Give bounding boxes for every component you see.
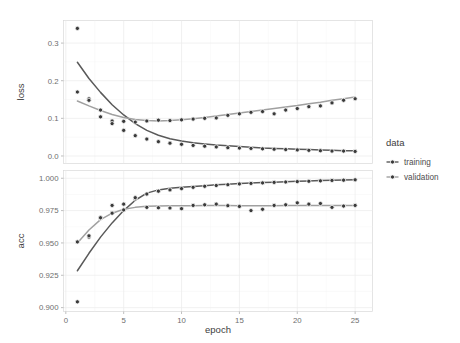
data-point-training [98,115,102,119]
legend-key-point-validation [390,175,394,179]
data-point-training [145,192,149,196]
legend-label-training[interactable]: training [404,158,431,167]
data-point-training [75,26,79,30]
data-point-validation [168,119,172,123]
y-axis-title-acc: acc [15,233,26,248]
data-point-validation [98,108,102,112]
data-point-training [353,178,357,182]
data-point-validation [307,202,311,206]
data-point-training [179,187,183,191]
data-point-training [318,179,322,183]
data-point-validation [272,203,276,207]
data-point-training [284,147,288,151]
data-point-validation [122,202,126,206]
data-point-training [156,140,160,144]
data-point-validation [145,205,149,209]
x-tick-label: 20 [293,316,302,325]
data-point-training [237,182,241,186]
data-point-validation [353,203,357,207]
data-point-validation [191,117,195,121]
data-point-validation [98,216,102,220]
data-point-validation [341,98,345,102]
data-point-validation [145,119,149,123]
data-point-training [249,146,253,150]
data-point-training [318,149,322,153]
y-tick-label-acc: 0.900 [39,303,59,312]
y-tick-label-loss: 0.3 [48,39,59,48]
x-tick-label: 25 [351,316,360,325]
y-tick-label-loss: 0.2 [48,77,59,86]
data-point-validation [203,203,207,207]
data-point-validation [156,206,160,210]
data-point-training [341,178,345,182]
data-point-training [122,208,126,212]
data-point-validation [214,202,218,206]
data-point-training [75,300,79,304]
data-point-validation [179,207,183,211]
data-point-training [284,180,288,184]
data-point-validation [237,204,241,208]
data-point-validation [133,196,137,200]
data-point-validation [260,207,264,211]
data-point-training [307,148,311,152]
data-point-validation [133,120,137,124]
data-point-training [307,179,311,183]
data-point-validation [249,209,253,213]
facet-panel-loss [64,21,373,164]
data-point-validation [318,201,322,205]
data-point-training [179,142,183,146]
data-point-validation [214,116,218,120]
data-point-validation [110,203,114,207]
data-point-validation [330,101,334,105]
data-point-training [330,178,334,182]
data-point-validation [249,110,253,114]
data-point-validation [191,203,195,207]
legend-label-validation[interactable]: validation [404,173,439,182]
data-point-training [156,189,160,193]
data-point-training [249,181,253,185]
data-point-validation [156,118,160,122]
data-point-training [295,148,299,152]
legend-key-point-training [390,160,394,164]
data-point-training [168,141,172,145]
x-axis-title: epoch [205,324,231,335]
data-point-training [203,144,207,148]
data-point-validation [341,204,345,208]
data-point-validation [75,240,79,244]
data-point-validation [75,90,79,94]
data-point-validation [203,116,207,120]
data-point-validation [272,112,276,116]
x-tick-label: 5 [122,316,127,325]
data-point-validation [168,206,172,210]
data-point-validation [318,104,322,108]
y-tick-label-acc: 0.925 [39,271,59,280]
data-point-training [214,183,218,187]
data-point-training [226,183,230,187]
data-point-validation [295,106,299,110]
data-point-training [341,149,345,153]
x-tick-label: 0 [64,316,69,325]
data-point-training [145,137,149,141]
data-point-validation [260,109,264,113]
data-point-validation [284,203,288,207]
data-point-training [353,149,357,153]
data-point-validation [307,105,311,109]
data-point-training [272,147,276,151]
data-point-validation [226,204,230,208]
data-point-validation [110,122,114,126]
data-point-validation [87,98,91,102]
x-tick-label: 10 [177,316,186,325]
data-point-validation [179,118,183,122]
data-point-validation [122,119,126,123]
data-point-training [330,149,334,153]
facet-panel-acc [64,171,373,312]
y-tick-label-loss: 0.0 [48,152,60,161]
data-point-validation [295,201,299,205]
data-point-validation [284,108,288,112]
data-point-validation [330,205,334,209]
y-tick-label-acc: 1.000 [39,174,59,183]
data-point-training [295,180,299,184]
data-point-training [191,185,195,189]
data-point-training [260,147,264,151]
y-tick-label-acc: 0.975 [39,206,59,215]
